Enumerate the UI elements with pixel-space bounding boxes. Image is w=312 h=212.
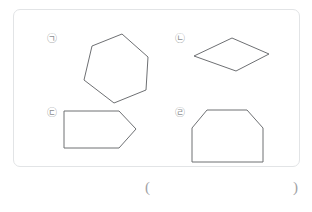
polygon-2 [194,38,269,71]
answer-open-paren: ( [145,178,150,196]
figure-frame: ㉠ ㉡ ㉢ ㉣ [13,9,300,167]
polygon-3 [64,111,136,148]
polygon-4 [192,110,263,162]
figure-cell-2: ㉡ [172,22,287,104]
figure-cell-1: ㉠ [44,22,154,104]
figure-cell-3: ㉢ [44,96,154,158]
figure-label-1: ㉠ [45,32,58,45]
shape-rhombus-2 [194,38,274,76]
figure-cell-4: ㉣ [172,96,287,168]
shape-pentagon-arrow-3 [64,111,140,151]
figure-label-2: ㉡ [173,32,186,45]
worksheet-page: ㉠ ㉡ ㉢ ㉣ ( ) [0,0,312,212]
shape-hexagon-4 [192,110,268,166]
figure-label-4: ㉣ [173,106,186,119]
figure-label-3: ㉢ [45,106,58,119]
answer-close-paren: ) [293,178,298,196]
polygon-1 [84,34,148,103]
answer-blank[interactable]: ( ) [13,178,300,202]
